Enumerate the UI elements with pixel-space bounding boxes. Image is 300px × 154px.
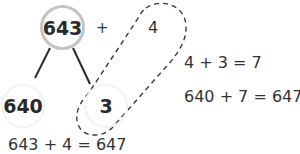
whole-number: 643 — [43, 17, 83, 39]
step-equation-1: 4 + 3 = 7 — [184, 55, 262, 71]
result-equation: 643 + 4 = 647 — [8, 137, 126, 153]
part-left-number: 640 — [3, 95, 43, 117]
branch-line-left — [35, 48, 50, 78]
plus-operator: + — [96, 21, 109, 36]
part-right-circle: 3 — [84, 84, 128, 128]
part-right-number: 3 — [99, 95, 112, 117]
addend-number: 4 — [148, 20, 158, 36]
step-equation-2: 640 + 7 = 647 — [184, 89, 300, 105]
number-bond-diagram: 643 640 3 + 4 4 + 3 = 7 640 + 7 = 647 64… — [0, 0, 300, 154]
whole-number-circle: 643 — [40, 5, 85, 50]
branch-line-right — [73, 48, 90, 84]
part-left-circle: 640 — [1, 84, 45, 128]
